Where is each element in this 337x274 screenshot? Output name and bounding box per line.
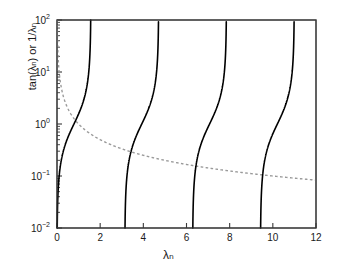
x-axis-label: λₙ [0,248,337,262]
figure-container: 10−210−1100101102 024681012 tan(λₙ) or 1… [0,0,337,274]
x-axis-tick-labels: 024681012 [54,232,322,243]
svg-text:12: 12 [310,232,322,243]
svg-text:4: 4 [141,232,147,243]
svg-text:6: 6 [184,232,190,243]
svg-text:2: 2 [97,232,103,243]
chart-canvas: 10−210−1100101102 024681012 [0,0,337,274]
svg-text:10: 10 [267,232,279,243]
svg-text:0: 0 [54,232,60,243]
svg-text:8: 8 [227,232,233,243]
svg-text:10−2: 10−2 [31,221,50,234]
y-axis-label: tan(λₙ) or 1/λₙ [26,0,39,137]
svg-text:10−1: 10−1 [31,169,50,182]
y-axis-label-text: tan(λₙ) or 1/λₙ [26,23,38,90]
x-axis-label-text: λₙ [163,248,174,262]
